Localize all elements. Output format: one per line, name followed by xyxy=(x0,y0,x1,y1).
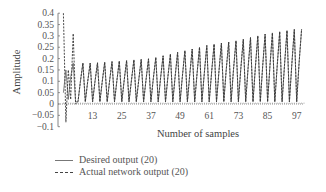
x-tick-label: 85 xyxy=(263,111,273,121)
y-tick-label: −0.1 xyxy=(37,122,54,132)
y-tick-label: 0.35 xyxy=(37,20,54,30)
y-tick-label: 0.05 xyxy=(37,88,54,98)
y-tick-label: 0.4 xyxy=(42,8,54,18)
legend-item-desired: Desired output (20) xyxy=(55,154,188,166)
y-tick-label: 0.3 xyxy=(42,31,54,41)
y-tick-label: 0.2 xyxy=(42,54,54,64)
dashed-line-swatch-icon xyxy=(55,172,73,173)
y-axis-label: Amplitude xyxy=(11,49,22,94)
x-tick-label: 25 xyxy=(117,111,127,121)
legend: Desired output (20) Actual network outpu… xyxy=(55,154,188,178)
x-tick-label: 61 xyxy=(204,111,214,121)
series-actual-output xyxy=(63,13,301,122)
legend-item-actual: Actual network output (20) xyxy=(55,166,188,178)
x-tick-label: 13 xyxy=(88,111,98,121)
legend-label: Actual network output (20) xyxy=(79,166,188,178)
solid-line-swatch-icon xyxy=(55,160,73,161)
y-axis-ticks: −0.1−0.0500.050.10.150.20.250.30.350.4 xyxy=(32,8,60,132)
legend-label: Desired output (20) xyxy=(79,154,157,166)
x-tick-label: 37 xyxy=(146,111,156,121)
y-tick-label: −0.05 xyxy=(32,110,54,120)
x-axis-label: Number of samples xyxy=(157,128,239,139)
y-tick-label: 0.1 xyxy=(42,76,54,86)
x-tick-label: 49 xyxy=(175,111,185,121)
line-chart: −0.1−0.0500.050.10.150.20.250.30.350.4 1… xyxy=(0,0,326,150)
y-tick-label: 0 xyxy=(49,99,54,109)
y-tick-label: 0.25 xyxy=(37,42,54,52)
x-tick-label: 97 xyxy=(292,111,302,121)
y-tick-label: 0.15 xyxy=(37,65,54,75)
x-tick-label: 73 xyxy=(234,111,244,121)
x-axis-ticks: 1325374961738597 xyxy=(63,103,304,122)
